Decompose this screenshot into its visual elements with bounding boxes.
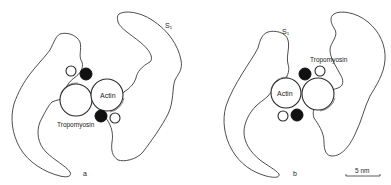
figure-canvas: Actin Tropomyosin S₁ a Actin Tropomyosin…: [0, 0, 391, 185]
tropomyosin-open-circle: [315, 66, 325, 76]
tropomyosin-open-circle: [278, 111, 288, 121]
tropomyosin-open-circle: [110, 113, 120, 123]
actin-label: Actin: [100, 92, 116, 99]
panel-b: Actin Tropomyosin S₁ b: [224, 12, 385, 177]
tropomyosin-side-circle: [302, 78, 334, 110]
tropomyosin-label: Tropomyosin: [57, 121, 95, 129]
tropomyosin-filled-circle: [95, 110, 107, 122]
panel-label-a: a: [83, 170, 87, 177]
tropomyosin-open-circle: [66, 66, 76, 76]
s1-label: S₁: [165, 22, 173, 29]
panel-label-b: b: [293, 170, 297, 177]
actin-label: Actin: [277, 90, 293, 97]
s1-label: S₁: [282, 28, 290, 35]
scale-bar-line: [346, 174, 380, 176]
tropomyosin-filled-circle: [299, 68, 311, 80]
tropomyosin-filled-circle: [291, 109, 303, 121]
scale-bar: 5 nm: [346, 167, 380, 176]
tropomyosin-side-circle: [60, 84, 92, 116]
scale-bar-label: 5 nm: [355, 167, 369, 174]
tropomyosin-label: Tropomyosin: [310, 56, 348, 64]
tropomyosin-filled-circle: [80, 68, 92, 80]
panel-a: Actin Tropomyosin S₁ a: [12, 12, 181, 177]
